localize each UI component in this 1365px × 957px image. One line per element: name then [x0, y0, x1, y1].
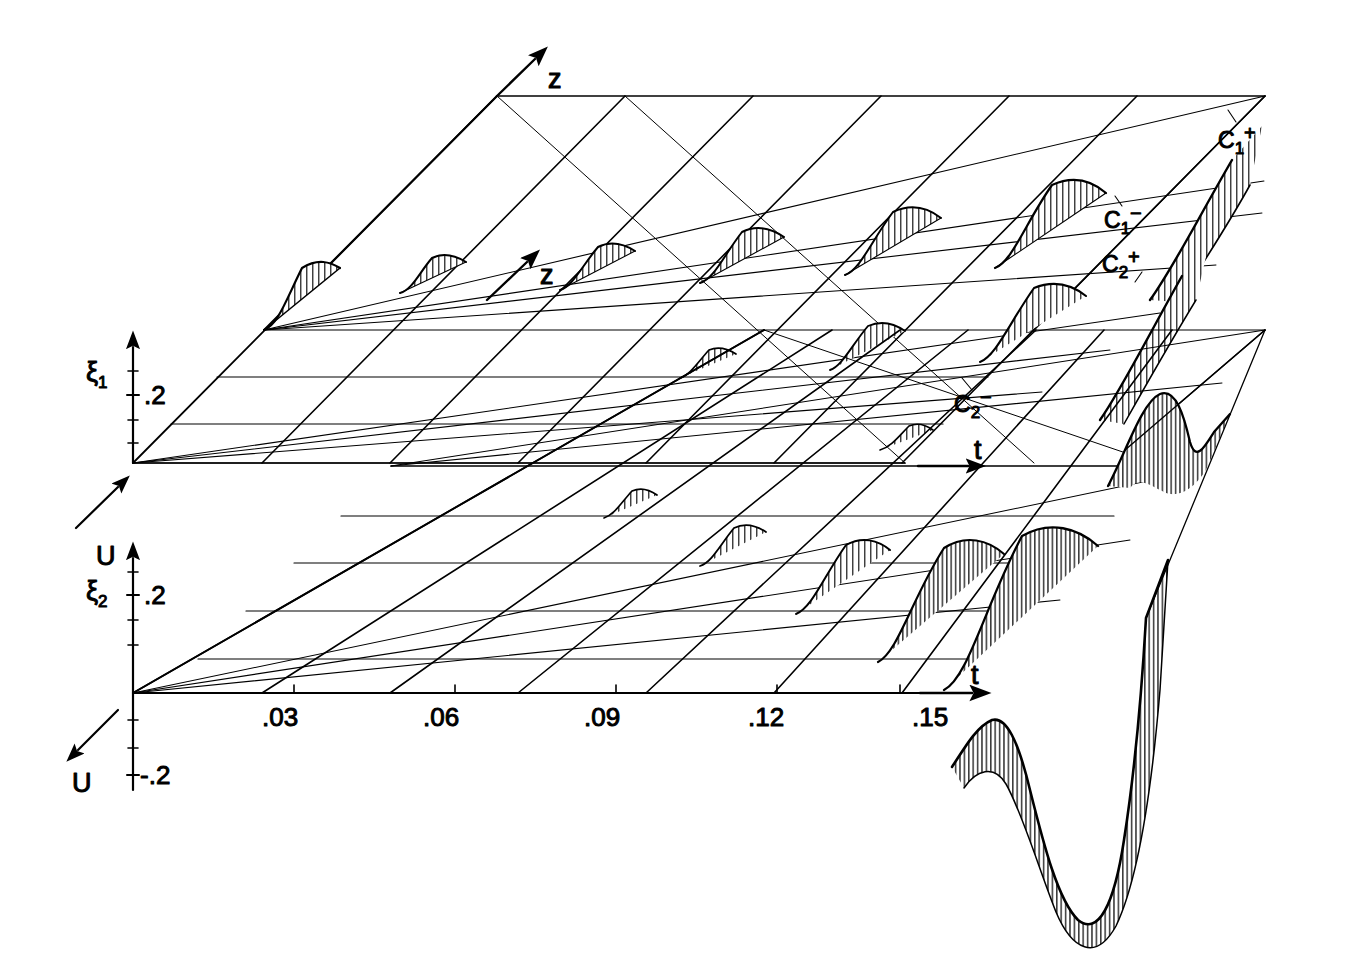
lower-xi2-tick-label-negative: -.2 [140, 760, 170, 790]
curve-label-c2minus-group: C2− [954, 378, 992, 422]
curve-label-c1minus-leader [1115, 196, 1122, 206]
lower-t-tick-label-1: .06 [423, 702, 459, 732]
lower-t-tick-label-0: .03 [262, 702, 298, 732]
upper-u-axis-label: U [96, 541, 116, 571]
lower-t-ticks [294, 685, 900, 693]
upper-u-axis-line [76, 487, 118, 528]
curve-label-c2plus-group: C2+ [1102, 246, 1142, 282]
lower-u-axis [78, 710, 118, 750]
upper-u-axis [76, 487, 118, 528]
upper-wave-row2c-fill [980, 284, 1086, 362]
curve-label-c1minus: C1− [1104, 202, 1142, 238]
lower-t-axis-label: t [971, 660, 979, 690]
curve-label-c2plus: C2+ [1102, 246, 1140, 282]
lower-xi2-tick-label-positive: .2 [144, 580, 166, 610]
lower-xi2-axis [127, 558, 139, 790]
lower-z-grid-7 [902, 330, 1172, 693]
upper-wave-row1f-fill [995, 180, 1106, 268]
upper-surface-plot [133, 96, 1265, 463]
lower-xi2-axis-label: ξ2 [86, 576, 108, 611]
upper-xi1-axis [127, 347, 139, 463]
lower-u-axis-line [78, 710, 118, 750]
lower-t-tick-label-2: .09 [584, 702, 620, 732]
upper-t-axis-label: t [974, 435, 982, 465]
curve-label-c2minus-leader [962, 378, 972, 390]
lower-z-grid-1 [133, 330, 764, 693]
upper-z-axis-top [497, 59, 535, 96]
curve-label-c1plus-leader [1228, 110, 1236, 122]
figure-root: ξ1 .2 U z z t ξ2 .2 -.2 U [0, 0, 1365, 957]
upper-z-axis-top-line [497, 59, 535, 96]
lower-t-tick-label-4: .15 [912, 702, 948, 732]
curve-label-c2plus-leader [1135, 272, 1142, 282]
waterfall-surface-figure: ξ1 .2 U z z t ξ2 .2 -.2 U [0, 0, 1365, 957]
upper-z-axis-mid-label: z [540, 260, 554, 290]
lower-t-tick-label-3: .12 [748, 702, 784, 732]
upper-z-axis-top-label: z [548, 64, 562, 94]
lower-z-grid-2 [262, 330, 832, 693]
upper-xi1-tick-label: .2 [144, 380, 166, 410]
lower-u-axis-label: U [72, 768, 92, 798]
upper-xi1-axis-label: ξ1 [86, 357, 108, 392]
